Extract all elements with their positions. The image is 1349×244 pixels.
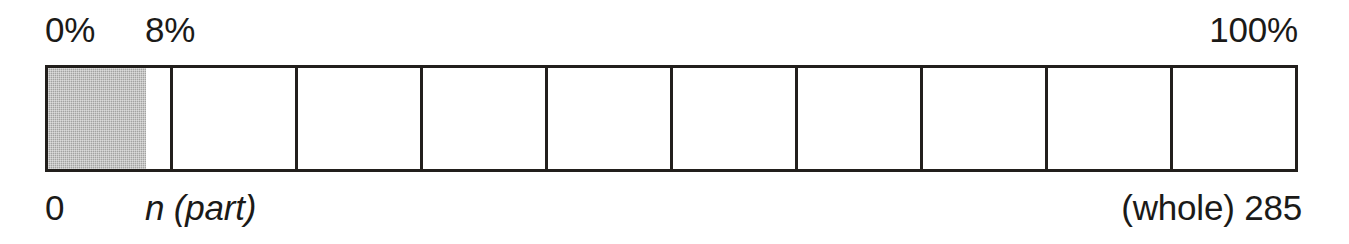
scale-label-whole-value: (whole) 285 (1121, 186, 1302, 230)
bar-cell-6 (673, 68, 798, 169)
bar-cell-1 (48, 68, 173, 169)
scale-label-hundred-percent: 100% (1209, 8, 1298, 52)
bar-cell-8 (923, 68, 1048, 169)
bar-cell-7 (798, 68, 923, 169)
bar-cell-4 (423, 68, 548, 169)
bar-cell-9 (1048, 68, 1173, 169)
top-scale-labels: 0% 8% 100% (45, 8, 1298, 56)
bottom-scale-labels: 0 n (part) (whole) 285 (45, 186, 1300, 236)
percent-bar (45, 65, 1298, 172)
bar-cell-5 (548, 68, 673, 169)
bar-cell-2 (173, 68, 298, 169)
scale-label-zero-value: 0 (45, 186, 64, 230)
bar-fill-shaded-part (48, 68, 146, 169)
scale-label-part-percent: 8% (145, 8, 195, 52)
bar-cell-3 (298, 68, 423, 169)
scale-label-part-value: n (part) (145, 186, 256, 230)
scale-label-zero-percent: 0% (45, 8, 95, 52)
percent-bar-diagram: 0% 8% 100% 0 n (part) (whole) 285 (0, 0, 1349, 244)
bar-cell-10 (1173, 68, 1295, 169)
